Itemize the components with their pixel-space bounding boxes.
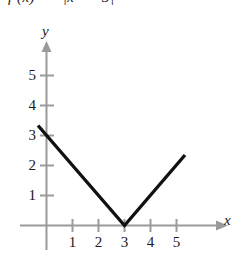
x-axis-label: x <box>224 212 231 229</box>
x-tick-label-3: 3 <box>117 234 133 251</box>
y-tick-label-3: 3 <box>22 127 36 144</box>
absolute-value-curve <box>38 126 185 226</box>
y-tick-label-1: 1 <box>22 187 36 204</box>
x-tick-label-1: 1 <box>65 234 81 251</box>
y-axis-label: y <box>42 23 49 40</box>
figure-container: f (x) = |x − 3| <box>0 0 248 270</box>
x-tick-label-2: 2 <box>91 234 107 251</box>
plot-area: y x 1 2 3 4 5 1 2 3 4 5 <box>0 0 248 270</box>
y-axis-arrowhead <box>42 41 52 52</box>
y-tick-label-4: 4 <box>22 97 36 114</box>
x-tick-label-5: 5 <box>169 234 185 251</box>
x-tick-label-4: 4 <box>143 234 159 251</box>
y-tick-label-2: 2 <box>22 157 36 174</box>
y-tick-label-5: 5 <box>22 67 36 84</box>
graph-svg <box>0 0 248 270</box>
